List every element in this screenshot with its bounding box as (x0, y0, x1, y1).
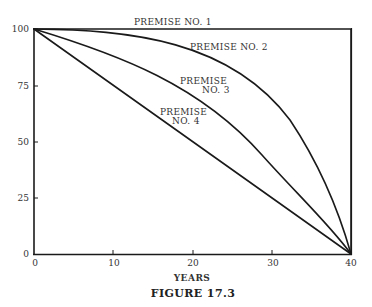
chart: 100 75 50 25 0 0 10 20 30 40 PREMISE NO.… (0, 0, 372, 307)
label-premise-4-line2: NO. 4 (172, 116, 200, 126)
x-axis-title: YEARS (173, 273, 211, 283)
y-tick-25: 25 (18, 193, 30, 203)
x-ticks (113, 250, 272, 254)
y-tick-75: 75 (18, 81, 30, 91)
label-premise-2: PREMISE NO. 2 (190, 42, 268, 52)
y-tick-50: 50 (18, 137, 30, 147)
x-tick-10: 10 (108, 258, 120, 268)
label-premise-1: PREMISE NO. 1 (134, 17, 212, 27)
series-lines (34, 29, 351, 254)
x-tick-30: 30 (267, 258, 279, 268)
x-tick-labels: 0 10 20 30 40 (32, 258, 357, 268)
label-premise-3-line2: NO. 3 (202, 85, 230, 95)
series-labels: PREMISE NO. 1 PREMISE NO. 2 PREMISE NO. … (134, 17, 268, 126)
x-tick-20: 20 (187, 258, 199, 268)
x-tick-40: 40 (345, 258, 357, 268)
figure-caption: FIGURE 17.3 (151, 287, 236, 300)
y-tick-100: 100 (12, 24, 29, 34)
y-tick-labels: 100 75 50 25 0 (12, 24, 29, 259)
y-tick-0: 0 (23, 249, 29, 259)
x-tick-0: 0 (32, 258, 38, 268)
